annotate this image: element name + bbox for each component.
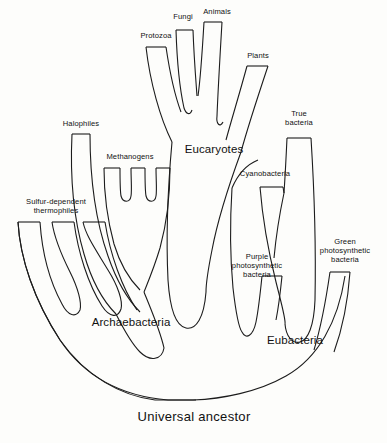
branch-fungi-right bbox=[193, 30, 197, 96]
branch-purple-left bbox=[242, 276, 262, 336]
label-purple-line1: Purple bbox=[246, 252, 269, 261]
branch-methanogen-1-inner bbox=[120, 168, 131, 201]
archaebacteria-outer-left-edge bbox=[18, 222, 196, 400]
label-true-bacteria-line2: bacteria bbox=[285, 118, 313, 127]
branch-animals-right bbox=[217, 22, 223, 125]
label-eubacteria: Eubacteria bbox=[257, 334, 333, 348]
label-cyanobacteria: Cyanobacteria bbox=[233, 170, 297, 179]
branch-animals-left bbox=[198, 22, 204, 96]
label-protozoa: Protozoa bbox=[134, 32, 178, 41]
label-sulfur-line2: thermophiles bbox=[34, 206, 79, 215]
root-left-connector bbox=[18, 222, 155, 400]
label-animals: Animals bbox=[198, 8, 236, 17]
label-green-line1: Green bbox=[334, 237, 356, 246]
label-green-line3: bacteria bbox=[331, 255, 359, 264]
branch-true-bacteria-left bbox=[284, 138, 287, 193]
label-plants: Plants bbox=[241, 52, 275, 61]
branch-sulfur-2-inner bbox=[74, 222, 121, 315]
eucaryotes-trunk-left bbox=[167, 142, 206, 328]
label-green-line2: photosynthetic bbox=[320, 246, 370, 255]
branch-sulfur-3-inner bbox=[105, 222, 137, 310]
branch-plants-left bbox=[226, 66, 247, 140]
tree-drawing bbox=[0, 0, 387, 443]
branch-purple-right bbox=[276, 276, 282, 320]
branch-sulfur-1-inner bbox=[40, 222, 81, 315]
label-purple-line3: bacteria bbox=[243, 270, 271, 279]
branch-methanogens-outer-right bbox=[144, 168, 170, 292]
label-sulfur-dependent-thermophiles: Sulfur-dependentthermophiles bbox=[12, 198, 100, 216]
branch-plants-right bbox=[241, 66, 268, 152]
label-true-bacteria: Truebacteria bbox=[277, 110, 321, 128]
branch-fungi-left bbox=[176, 30, 192, 114]
label-archaebacteria: Archaebacteria bbox=[84, 316, 178, 330]
label-sulfur-line1: Sulfur-dependent bbox=[26, 197, 86, 206]
label-methanogens: Methanogens bbox=[99, 153, 161, 162]
label-eucaryotes: Eucaryotes bbox=[179, 143, 249, 157]
cyanobacteria-true-bacteria-junction bbox=[274, 193, 284, 258]
label-true-bacteria-line1: True bbox=[291, 109, 307, 118]
label-fungi: Fungi bbox=[167, 13, 199, 22]
label-purple-photosynthetic-bacteria: Purplephotosyntheticbacteria bbox=[228, 253, 286, 280]
label-purple-line2: photosynthetic bbox=[232, 261, 282, 270]
phylogenetic-tree-figure: Protozoa Fungi Animals Plants Eucaryotes… bbox=[0, 0, 387, 443]
branch-methanogen-2-inner bbox=[145, 168, 156, 201]
label-halophiles: Halophiles bbox=[55, 120, 107, 129]
label-universal-ancestor: Universal ancestor bbox=[118, 409, 270, 424]
branch-protozoa-right bbox=[166, 47, 181, 112]
label-green-photosynthetic-bacteria: Greenphotosyntheticbacteria bbox=[314, 238, 376, 265]
